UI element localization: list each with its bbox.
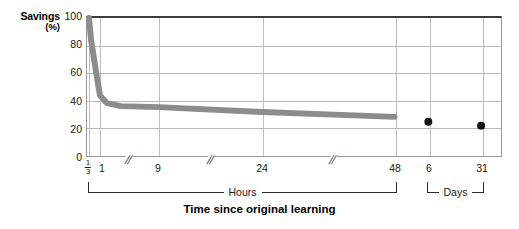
x-tick-1: 1 <box>99 162 105 174</box>
y-axis-title: Savings (%) <box>8 10 60 33</box>
y-tick-0: 0 <box>58 151 82 163</box>
x-tick-48: 48 <box>389 162 401 174</box>
fraction-one-third: 1 3 <box>85 159 91 177</box>
x-tick-9: 9 <box>155 162 161 174</box>
y-tick-labels: 100 80 60 40 20 0 <box>56 16 82 157</box>
retention-curve-line <box>89 18 395 117</box>
x-tick-one-third: 1 3 <box>85 159 91 177</box>
bracket-label-days: Days <box>439 186 473 198</box>
x-tick-31-days: 31 <box>476 162 488 174</box>
x-group-brackets: Hours Days <box>86 182 502 200</box>
bracket-label-hours: Hours <box>223 186 261 198</box>
bracket-hours: Hours <box>88 182 397 193</box>
bracket-days: Days <box>427 182 484 193</box>
y-tick-60: 60 <box>58 66 82 78</box>
x-axis-title: Time since original learning <box>0 203 519 215</box>
x-tick-6-days: 6 <box>426 162 432 174</box>
x-tick-labels: 1 3 1 9 24 48 6 31 // // // <box>86 159 502 183</box>
data-point-6-days <box>424 118 432 126</box>
y-tick-80: 80 <box>58 38 82 50</box>
y-tick-20: 20 <box>58 123 82 135</box>
y-tick-100: 100 <box>58 10 82 22</box>
data-point-31-days <box>477 122 485 130</box>
x-tick-24: 24 <box>256 162 268 174</box>
y-tick-40: 40 <box>58 95 82 107</box>
curve-svg <box>87 18 501 156</box>
plot-area <box>86 16 502 157</box>
y-axis-title-unit: (%) <box>8 22 60 33</box>
forgetting-curve-chart: Savings (%) 100 80 60 40 20 0 <box>0 0 519 229</box>
